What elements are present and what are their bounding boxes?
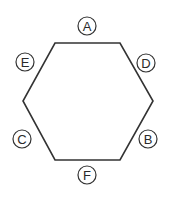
svg-text:E: E — [21, 55, 30, 70]
label-a: A — [78, 17, 96, 35]
svg-text:B: B — [144, 132, 153, 147]
label-b: B — [139, 130, 157, 148]
svg-text:A: A — [83, 19, 92, 34]
svg-text:C: C — [17, 132, 26, 147]
label-f: F — [78, 166, 96, 184]
label-c: C — [13, 130, 31, 148]
svg-text:F: F — [83, 168, 91, 183]
hexagon-shape — [23, 43, 153, 160]
label-d: D — [137, 54, 155, 72]
svg-text:D: D — [141, 56, 150, 71]
hexagon-diagram: A D B F C E — [0, 0, 173, 199]
label-e: E — [16, 53, 34, 71]
